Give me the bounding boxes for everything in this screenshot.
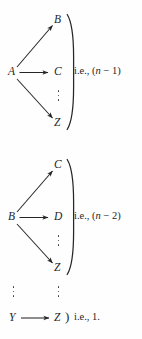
node-b1-target-mid: C xyxy=(54,66,62,78)
annotation-block-1-tail: − 1) xyxy=(101,65,121,76)
figure-canvas: B A C Z i.e., (n − 1) C B D Z i.e., (n −… xyxy=(0,0,142,339)
node-b1-source: A xyxy=(8,66,15,78)
node-final-source: Y xyxy=(9,312,15,324)
annotation-block-1-prefix: i.e., ( xyxy=(74,65,96,76)
node-b2-target-mid: D xyxy=(54,211,62,223)
annotation-block-2-tail: − 2) xyxy=(101,210,121,221)
arrow-b-to-z xyxy=(17,224,53,263)
annotation-final: i.e., 1. xyxy=(74,312,100,323)
arrow-b-to-c xyxy=(17,171,53,212)
annotation-block-1: i.e., (n − 1) xyxy=(74,66,121,77)
vertical-dots-block-1 xyxy=(57,90,60,101)
node-b2-source: B xyxy=(8,211,15,223)
annotation-block-2: i.e., (n − 2) xyxy=(74,211,121,222)
node-b2-target-up: C xyxy=(54,159,62,171)
node-final-target: Z xyxy=(54,312,60,324)
arrow-a-to-b xyxy=(17,26,53,68)
vertical-dots-right xyxy=(57,286,60,297)
closing-paren-final: ) xyxy=(65,310,69,323)
node-b1-target-up: B xyxy=(54,14,61,26)
node-b2-target-down: Z xyxy=(54,262,60,274)
annotation-block-2-prefix: i.e., ( xyxy=(74,210,96,221)
vertical-dots-left xyxy=(12,286,15,297)
node-b1-target-down: Z xyxy=(54,117,60,129)
vertical-dots-block-2 xyxy=(57,235,60,246)
arrow-a-to-z xyxy=(17,79,53,118)
